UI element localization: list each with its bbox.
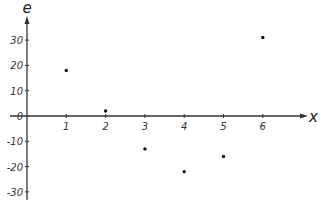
y-axis-arrow-icon bbox=[25, 16, 30, 24]
data-point bbox=[104, 109, 107, 112]
y-tick-label: -10 bbox=[7, 136, 23, 147]
axes: 3020100-10-20-30123456ex bbox=[7, 0, 318, 200]
y-tick-label: 10 bbox=[10, 86, 23, 97]
y-tick-label: 20 bbox=[10, 60, 23, 71]
data-point bbox=[261, 36, 264, 39]
data-point bbox=[65, 69, 68, 72]
y-tick-label: 0 bbox=[17, 111, 23, 122]
x-tick-label: 4 bbox=[181, 121, 187, 132]
data-point bbox=[183, 170, 186, 173]
x-tick-label: 5 bbox=[220, 121, 226, 132]
y-tick-label: -30 bbox=[7, 187, 23, 198]
y-tick-label: 30 bbox=[10, 35, 23, 46]
y-tick-label: -20 bbox=[7, 162, 23, 173]
y-axis-label: e bbox=[22, 0, 31, 17]
x-tick-label: 6 bbox=[260, 121, 266, 132]
data-points bbox=[65, 36, 265, 173]
x-tick-label: 3 bbox=[142, 121, 148, 132]
data-point bbox=[222, 155, 225, 158]
x-axis-arrow-icon bbox=[300, 114, 308, 119]
x-tick-label: 2 bbox=[102, 121, 108, 132]
x-tick-label: 1 bbox=[63, 121, 69, 132]
x-axis-label: x bbox=[308, 108, 318, 126]
scatter-chart: 3020100-10-20-30123456ex bbox=[0, 0, 321, 209]
data-point bbox=[143, 147, 146, 150]
